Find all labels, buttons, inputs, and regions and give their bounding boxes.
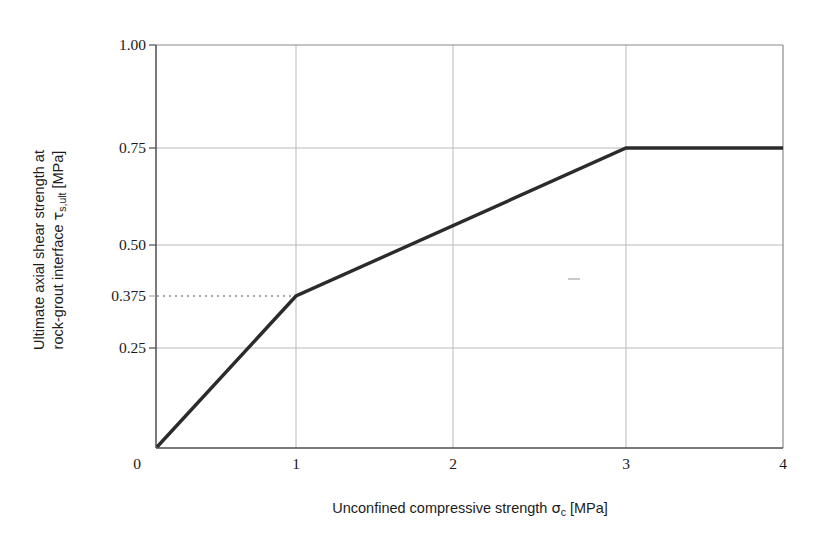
- gridlines-vertical: [296, 45, 626, 448]
- plot-area: [0, 0, 818, 545]
- plot-frame: [156, 45, 783, 448]
- gridlines-horizontal: [156, 148, 783, 348]
- chart-figure: Ultimate axial shear strength at rock-gr…: [0, 0, 818, 545]
- y-axis-ticks: [149, 45, 156, 348]
- data-series-line: [157, 148, 783, 447]
